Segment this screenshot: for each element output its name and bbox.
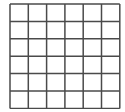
square-grid bbox=[9, 3, 121, 109]
